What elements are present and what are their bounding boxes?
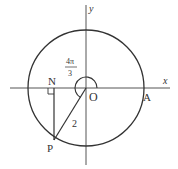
- angle-numerator: 4π: [66, 57, 74, 66]
- point-a-label: A: [143, 91, 151, 103]
- right-angle-marker: [48, 88, 54, 94]
- segment-op: [54, 88, 86, 140]
- unit-circle-diagram: y x O A N P 2 4π 3: [0, 0, 178, 169]
- point-n-label: N: [48, 75, 56, 87]
- point-p-label: P: [47, 142, 53, 154]
- angle-denominator: 3: [68, 69, 72, 78]
- origin-label: O: [89, 90, 98, 104]
- radius-label: 2: [72, 118, 77, 129]
- x-axis-label: x: [162, 75, 168, 86]
- y-axis-label: y: [88, 3, 94, 14]
